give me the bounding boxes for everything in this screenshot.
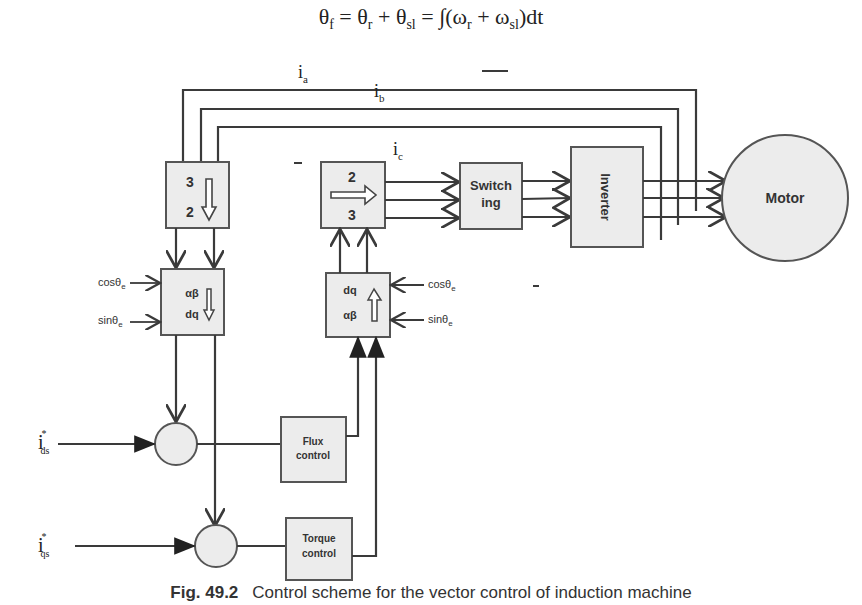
sin-theta-e-right-label: sinθe	[428, 313, 453, 328]
cos-theta-e-left-label: cosθe	[98, 276, 126, 291]
ids-reference-label: i*ds	[38, 428, 50, 456]
sin-theta-e-left-label: sinθe	[98, 314, 123, 329]
svg-text:Flux: Flux	[303, 436, 324, 447]
svg-text:2: 2	[186, 204, 194, 220]
ia-label: ia	[298, 62, 308, 85]
svg-text:Motor: Motor	[766, 190, 805, 206]
svg-text:Torque: Torque	[302, 533, 336, 544]
flux-summing-junction	[155, 423, 197, 465]
svg-text:Switch: Switch	[470, 178, 512, 193]
two-to-three-transform-block: 2 3	[321, 162, 385, 228]
figure-caption: Fig. 49.2Control scheme for the vector c…	[0, 583, 862, 603]
switching-block: Switch ing	[460, 163, 522, 229]
alphabeta-to-dq-block: αβ dq	[161, 269, 224, 335]
svg-text:Inverter: Inverter	[598, 173, 613, 221]
svg-text:2: 2	[348, 169, 356, 185]
svg-text:control: control	[302, 548, 336, 559]
svg-text:3: 3	[348, 207, 356, 223]
torque-control-block: Torque control	[286, 518, 352, 580]
svg-text:αβ: αβ	[185, 287, 199, 299]
iqs-reference-label: i*qs	[38, 531, 50, 559]
vector-control-diagram: ia ib ic 3 2 2 3 Switch ing Inverter	[0, 0, 862, 605]
flux-control-block: Flux control	[281, 417, 346, 482]
svg-text:dq: dq	[185, 308, 198, 320]
inverter-block: Inverter	[571, 147, 643, 247]
ic-label: ic	[393, 139, 403, 162]
svg-text:dq: dq	[343, 284, 356, 296]
motor: Motor	[722, 135, 848, 261]
ib-label: ib	[374, 81, 385, 104]
torque-summing-junction	[195, 525, 237, 567]
three-to-two-transform-block: 3 2	[166, 162, 229, 228]
svg-text:ing: ing	[481, 195, 501, 210]
svg-text:3: 3	[186, 174, 194, 190]
dq-to-alphabeta-block: dq αβ	[326, 273, 390, 337]
cos-theta-e-right-label: cosθe	[428, 278, 456, 293]
svg-text:αβ: αβ	[343, 309, 357, 321]
svg-text:control: control	[296, 450, 330, 461]
